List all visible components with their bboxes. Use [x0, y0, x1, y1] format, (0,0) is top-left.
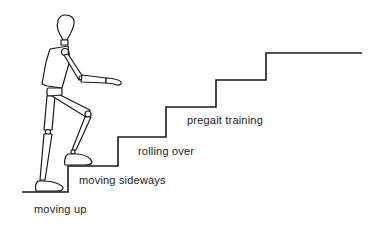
mannequin-front-foot	[65, 154, 92, 165]
label-moving-sideways: moving sideways	[79, 174, 166, 186]
label-moving-up: moving up	[34, 203, 87, 215]
staircase-diagram	[0, 0, 383, 225]
label-rolling-over: rolling over	[138, 145, 194, 157]
mannequin-hand	[106, 78, 121, 85]
mannequin-figure	[36, 15, 122, 191]
mannequin-head	[57, 15, 74, 40]
label-pregait-training: pregait training	[187, 114, 263, 126]
mannequin-back-foot	[36, 181, 63, 191]
